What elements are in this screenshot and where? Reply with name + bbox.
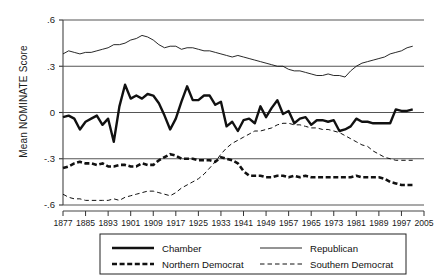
y-tick-label: -.6 <box>44 199 55 210</box>
x-tick-label: 1981 <box>347 218 366 228</box>
series-line <box>63 35 413 77</box>
chart-canvas: .6.30-.3-.6 1877188518931901190919171925… <box>0 0 441 278</box>
y-tick-label: 0 <box>50 107 55 118</box>
y-axis-title: Mean NOMINATE Score <box>18 27 29 177</box>
chart-legend: ChamberRepublicanNorthern DemocratSouthe… <box>100 234 406 274</box>
y-tick-label: .3 <box>47 61 55 72</box>
x-tick-label: 1893 <box>99 218 118 228</box>
data-series-group <box>63 35 413 200</box>
y-axis-ticks: .6.30-.3-.6 <box>44 14 63 210</box>
x-tick-label: 1989 <box>369 218 388 228</box>
series-line <box>63 85 413 142</box>
x-axis-ticks <box>63 211 424 216</box>
y-tick-label: .6 <box>47 14 55 25</box>
legend-label: Northern Democrat <box>162 259 244 270</box>
x-tick-label: 1941 <box>234 218 253 228</box>
x-tick-label: 1957 <box>279 218 298 228</box>
x-tick-label: 1949 <box>257 218 276 228</box>
gridlines <box>63 20 424 205</box>
legend-label: Republican <box>310 243 358 254</box>
x-tick-label: 1973 <box>324 218 343 228</box>
x-axis-tick-labels: 1877188518931901190919171925193319411949… <box>53 218 433 228</box>
legend-label: Southern Democrat <box>310 259 394 270</box>
x-tick-label: 1997 <box>392 218 411 228</box>
y-tick-label: -.3 <box>44 153 55 164</box>
x-tick-label: 1909 <box>144 218 163 228</box>
x-tick-label: 1925 <box>189 218 208 228</box>
x-tick-label: 1885 <box>76 218 95 228</box>
x-tick-label: 1933 <box>211 218 230 228</box>
x-tick-label: 1901 <box>121 218 140 228</box>
nominate-score-chart: Mean NOMINATE Score .6.30-.3-.6 18771885… <box>0 0 441 278</box>
x-tick-label: 1965 <box>302 218 321 228</box>
x-tick-label: 2005 <box>414 218 433 228</box>
legend-label: Chamber <box>162 243 202 254</box>
x-tick-label: 1877 <box>53 218 72 228</box>
x-tick-label: 1917 <box>166 218 185 228</box>
